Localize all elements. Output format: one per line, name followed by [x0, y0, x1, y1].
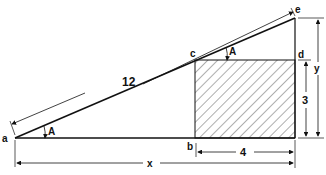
- dim-12-line-left: [12, 93, 85, 124]
- label-height-total: y: [314, 63, 320, 74]
- label-hypotenuse: 12: [122, 75, 136, 89]
- label-point-b: b: [187, 141, 193, 152]
- label-angle-c: A: [229, 46, 236, 57]
- label-point-c: c: [190, 48, 196, 59]
- angle-c-arc: [226, 47, 227, 60]
- label-base-total: x: [147, 158, 153, 169]
- shaded-rectangle: [195, 60, 295, 138]
- label-rect-height: 3: [302, 94, 308, 106]
- label-rect-width: 4: [240, 146, 247, 158]
- label-point-d: d: [298, 49, 304, 60]
- angle-a-arc: [44, 126, 45, 138]
- label-point-e: e: [295, 4, 301, 15]
- geometry-diagram: 12 A A a b c d e 4 x 3 y: [0, 0, 326, 175]
- label-point-a: a: [2, 133, 8, 144]
- label-angle-a: A: [48, 126, 55, 137]
